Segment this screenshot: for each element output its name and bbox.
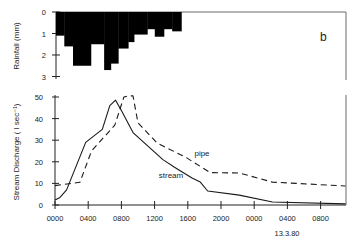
time-tick-label: 0800 (113, 214, 130, 223)
rainfall-bar (172, 12, 182, 31)
time-tick-label: 1600 (179, 214, 196, 223)
rainfall-bar (91, 12, 105, 44)
rainfall-bar (134, 12, 148, 35)
discharge-tick-label: 40 (35, 115, 43, 124)
discharge-panel: Stream Discharge ( l sec⁻¹) 01020304050 … (12, 93, 346, 238)
rainfall-bar (164, 12, 173, 29)
rainfall-bars (56, 12, 182, 70)
rainfall-bar (118, 12, 128, 49)
time-tick-label: 0400 (80, 214, 97, 223)
rainfall-tick-label: 3 (42, 73, 46, 82)
time-tick-label: 0000 (47, 214, 64, 223)
rainfall-tick-label: 1 (42, 30, 46, 39)
rainfall-bar (155, 12, 165, 37)
rainfall-tick-label: 2 (42, 51, 46, 60)
rainfall-bar (104, 12, 111, 70)
rainfall-panel: Rainfall (mm) 0123 b (12, 8, 346, 82)
discharge-tick-label: 50 (35, 93, 43, 102)
rainfall-bar (64, 12, 73, 46)
time-tick-label: 1200 (146, 214, 163, 223)
time-tick-label: 2000 (213, 214, 230, 223)
discharge-tick-label: 10 (35, 179, 43, 188)
date-annotation: 13.3.80 (274, 229, 299, 238)
pipe-label: pipe (194, 149, 210, 158)
rainfall-bar (73, 12, 91, 66)
rainfall-bar (128, 12, 134, 42)
time-tick-label: 0800 (312, 214, 329, 223)
discharge-tick-label: 0 (39, 201, 43, 210)
discharge-tick-label: 30 (35, 136, 43, 145)
hydrograph-figure: Rainfall (mm) 0123 b Stream Discharge ( … (0, 0, 359, 246)
time-x-ticks: 000004000800120016002000000004000800 (47, 201, 329, 223)
stream-label: stream (159, 171, 184, 180)
chart-svg: Rainfall (mm) 0123 b Stream Discharge ( … (0, 0, 359, 246)
series-labels: pipestream (159, 149, 210, 180)
pipe-line (55, 96, 346, 186)
discharge-tick-label: 20 (35, 158, 43, 167)
rainfall-axis-title: Rainfall (mm) (12, 22, 21, 70)
rainfall-tick-label: 0 (42, 8, 46, 17)
time-tick-label: 0400 (279, 214, 296, 223)
rainfall-bar (147, 12, 155, 29)
panel-label: b (320, 30, 327, 44)
time-tick-label: 0000 (246, 214, 263, 223)
rainfall-bar (111, 12, 119, 64)
rainfall-bar (56, 12, 65, 36)
discharge-axis-title: Stream Discharge ( l sec⁻¹) (12, 103, 21, 200)
